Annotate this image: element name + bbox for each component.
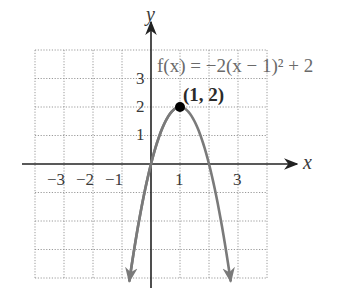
parabola-graph: y x f(x) = −2(x − 1)² + 2 (1, 2) −3 −2 −… [0,0,349,290]
x-tick-label: −1 [105,171,123,188]
y-tick-label: 2 [136,98,145,115]
y-tick-label: 3 [136,70,145,87]
x-axis-label: x [303,152,312,172]
coordinate-plane [0,0,349,290]
function-label: f(x) = −2(x − 1)² + 2 [157,56,313,75]
x-tick-label: 1 [175,171,184,188]
x-tick-label: −2 [76,171,94,188]
y-tick-label: 1 [136,126,145,143]
x-tick-label: −3 [47,171,65,188]
vertex-label: (1, 2) [183,85,224,104]
y-axis-label: y [146,4,155,24]
x-tick-label: 3 [233,171,242,188]
